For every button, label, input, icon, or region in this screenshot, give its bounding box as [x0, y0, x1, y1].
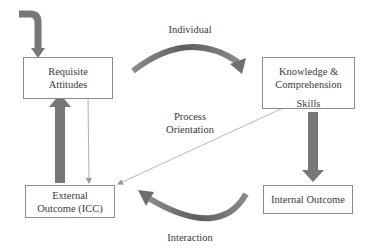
node-label: Knowledge & [263, 65, 354, 78]
node-requisite-attitudes: Requisite Attitudes [23, 57, 113, 99]
node-label: Comprehension [263, 78, 354, 91]
node-internal-outcome: Internal Outcome [263, 185, 353, 214]
edge-label-process-orientation: Process Orientation [150, 110, 230, 136]
down-arrow-knowledge-to-internal [302, 112, 324, 182]
entry-arrow [19, 14, 45, 58]
up-arrow-external-to-requisite [49, 94, 71, 183]
interaction-arc-arrow [138, 190, 246, 218]
node-knowledge-comprehension-skills: Knowledge & Comprehension Skills [262, 57, 355, 109]
node-label: Skills [263, 97, 354, 110]
node-label: Attitudes [24, 78, 112, 91]
node-external-outcome: External Outcome (ICC) [25, 185, 115, 218]
node-label: Outcome (ICC) [26, 202, 114, 215]
edge-label-line: Process [150, 110, 230, 123]
individual-arc-arrow [133, 47, 246, 74]
node-label: External [26, 189, 114, 202]
thin-line-requisite-to-external [88, 98, 89, 183]
edge-label-individual: Individual [150, 23, 230, 36]
edge-label-interaction: Interaction [150, 231, 230, 244]
node-label: Requisite [24, 65, 112, 78]
node-label: Internal Outcome [264, 193, 352, 206]
edge-label-line: Orientation [150, 123, 230, 136]
